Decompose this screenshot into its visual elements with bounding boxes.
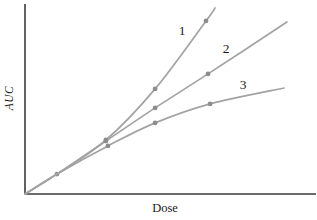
curve-2-label: 2 xyxy=(223,41,230,56)
curve-2-marker xyxy=(206,72,211,77)
curve-2-marker xyxy=(104,139,109,144)
curve-3-path xyxy=(25,88,284,194)
curve-3-marker xyxy=(153,121,158,126)
curve-1-path xyxy=(25,8,215,194)
curve-3-marker xyxy=(208,102,213,107)
chart-figure: 123 AUC Dose xyxy=(0,0,317,220)
chart-canvas: 123 xyxy=(0,0,317,220)
y-axis-label: AUC xyxy=(3,86,15,111)
curve-1-marker xyxy=(153,87,158,92)
curve-1-label: 1 xyxy=(179,23,186,38)
curve-2-marker xyxy=(153,106,158,111)
curve-3-marker xyxy=(106,144,111,149)
curve-3-label: 3 xyxy=(240,77,247,92)
curve-1-marker xyxy=(204,19,209,24)
x-axis-label: Dose xyxy=(152,201,178,216)
